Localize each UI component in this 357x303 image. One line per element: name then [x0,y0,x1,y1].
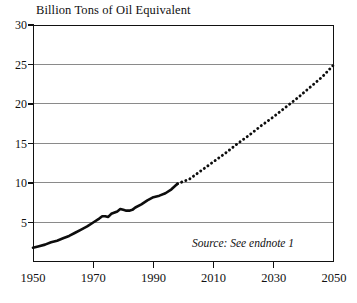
y-axis-label-10: 10 [0,177,27,189]
gridline-15 [34,143,333,144]
y-tick-30 [28,24,34,25]
x-axis-label-2050: 2050 [304,272,357,285]
gridline-10 [34,182,333,183]
x-axis-label-1990: 1990 [123,272,183,285]
chart-title: Billion Tons of Oil Equivalent [36,3,191,18]
x-axis-label-1970: 1970 [63,272,123,285]
y-tick-20 [28,103,34,104]
plot-area [33,25,334,262]
y-axis-label-5: 5 [0,217,27,229]
y-tick-5 [28,222,34,223]
x-tick-1990 [153,262,154,268]
y-axis-label-15: 15 [0,138,27,150]
x-tick-1970 [93,262,94,268]
x-axis-label-2010: 2010 [184,272,244,285]
gridline-25 [34,64,333,65]
gridline-group [34,26,333,261]
y-tick-25 [28,64,34,65]
y-axis-label-20: 20 [0,98,27,110]
y-tick-15 [28,143,34,144]
source-note: Source: See endnote 1 [192,237,294,249]
x-tick-2010 [213,262,214,268]
x-axis-label-2030: 2030 [244,272,304,285]
gridline-5 [34,222,333,223]
y-axis-label-25: 25 [0,59,27,71]
y-axis-label-30: 30 [0,19,27,31]
gridline-20 [34,103,333,104]
chart-figure: Billion Tons of Oil Equivalent 302520151… [0,0,357,303]
x-tick-2030 [273,262,274,268]
y-tick-10 [28,182,34,183]
x-axis-label-1950: 1950 [3,272,63,285]
